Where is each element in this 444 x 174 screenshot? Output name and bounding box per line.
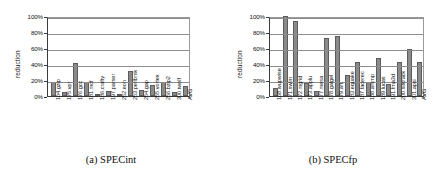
x-tick-label: 300.twolf bbox=[176, 78, 182, 100]
gridline bbox=[270, 34, 423, 35]
x-tick-label: 176.gcc bbox=[77, 81, 83, 100]
y-tick-mark bbox=[44, 97, 47, 98]
x-tick-label: 181.mcf bbox=[88, 80, 94, 100]
x-tick-label: 164.gzip bbox=[55, 79, 61, 100]
y-tick-label: 0% bbox=[237, 93, 265, 100]
gridline bbox=[270, 66, 423, 67]
x-tick-label: 252.eon bbox=[121, 80, 127, 100]
x-tick-label: 255.vortex bbox=[154, 74, 160, 100]
x-tick-label: 197.parser bbox=[110, 74, 116, 100]
y-tick-mark bbox=[44, 17, 47, 18]
x-tick-label: 186.crafty bbox=[99, 76, 105, 100]
x-tick-label: 256.bzip2 bbox=[165, 76, 171, 100]
y-tick-mark bbox=[266, 49, 269, 50]
x-tick-label: 187.facerec bbox=[359, 71, 365, 100]
y-tick-label: 60% bbox=[237, 45, 265, 52]
gridline bbox=[48, 34, 189, 35]
x-tick-label: 173.applu bbox=[307, 76, 313, 100]
x-tick-label: 188.ammp bbox=[369, 74, 375, 100]
x-tick-label: 179.art bbox=[338, 83, 344, 100]
x-tick-label: 172.mgrid bbox=[297, 76, 303, 100]
gridline bbox=[48, 18, 189, 19]
panel-specfp: reduction 0%20%40%60%80%100% 168.wupwise… bbox=[222, 0, 444, 174]
y-tick-label: 100% bbox=[15, 13, 43, 20]
gridline bbox=[270, 18, 423, 19]
x-tick-label: 191.fma3d bbox=[390, 74, 396, 100]
y-tick-mark bbox=[266, 33, 269, 34]
y-tick-label: 60% bbox=[15, 45, 43, 52]
panel-specint: reduction 0%20%40%60%80%100% 164.gzip175… bbox=[0, 0, 222, 174]
y-tick-mark bbox=[266, 81, 269, 82]
x-tick-label: 175.vpr bbox=[66, 82, 72, 100]
x-tick-label: 301.apsi bbox=[411, 79, 417, 100]
y-tick-mark bbox=[266, 97, 269, 98]
x-tick-label: 177.mesa bbox=[318, 76, 324, 100]
y-tick-label: 0% bbox=[15, 93, 43, 100]
x-tick-label: 183.equake bbox=[349, 71, 355, 100]
x-tick-label: 168.wupwise bbox=[276, 68, 282, 100]
x-tick-label: 171.swim bbox=[287, 77, 293, 100]
y-tick-label: 20% bbox=[15, 77, 43, 84]
y-tick-label: 40% bbox=[237, 61, 265, 68]
x-tick-label: 254.gap bbox=[143, 80, 149, 100]
x-tick-label: 178.galgel bbox=[328, 75, 334, 100]
caption-specint: (a) SPECint bbox=[0, 154, 222, 165]
figure-two-bar-charts: reduction 0%20%40%60%80%100% 164.gzip175… bbox=[0, 0, 444, 174]
y-tick-mark bbox=[266, 17, 269, 18]
x-tick-label: AVG bbox=[421, 89, 427, 100]
y-tick-mark bbox=[44, 65, 47, 66]
x-tick-label: 189.lucas bbox=[380, 77, 386, 101]
y-tick-label: 80% bbox=[237, 29, 265, 36]
y-tick-label: 80% bbox=[15, 29, 43, 36]
y-tick-label: 20% bbox=[237, 77, 265, 84]
x-tick-label: 200.sixtrack bbox=[400, 71, 406, 100]
gridline bbox=[48, 66, 189, 67]
gridline bbox=[48, 50, 189, 51]
y-tick-label: 100% bbox=[237, 13, 265, 20]
x-tick-label: 253.perlbmk bbox=[132, 70, 138, 100]
gridline bbox=[270, 50, 423, 51]
caption-specfp: (b) SPECfp bbox=[222, 154, 444, 165]
y-tick-label: 40% bbox=[15, 61, 43, 68]
y-tick-mark bbox=[44, 49, 47, 50]
y-tick-mark bbox=[44, 33, 47, 34]
y-tick-mark bbox=[266, 65, 269, 66]
x-tick-label: AVG bbox=[187, 89, 193, 100]
y-tick-mark bbox=[44, 81, 47, 82]
